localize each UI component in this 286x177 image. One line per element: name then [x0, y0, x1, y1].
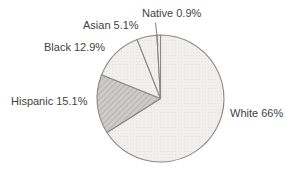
pie-svg [0, 0, 286, 177]
pie-slices [97, 35, 224, 162]
slice-label-native: Native 0.9% [142, 7, 201, 20]
slice-label-hispanic: Hispanic 15.1% [11, 95, 87, 108]
pie-chart: White 66% Hispanic 15.1% Black 12.9% Asi… [0, 0, 286, 177]
slice-label-black: Black 12.9% [44, 41, 105, 54]
slice-label-white: White 66% [230, 107, 283, 120]
slice-label-asian: Asian 5.1% [83, 19, 139, 32]
